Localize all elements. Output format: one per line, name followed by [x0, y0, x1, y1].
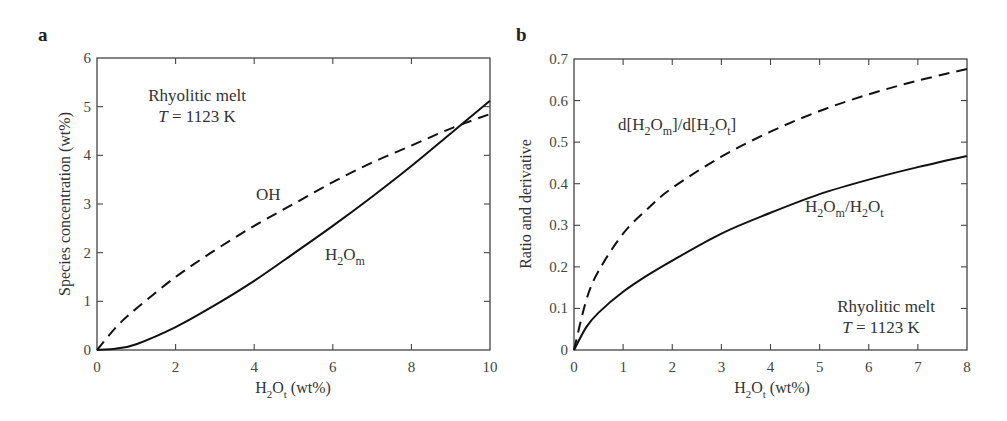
temperature-value: = 1123 K: [852, 318, 921, 337]
x-tick-label: 2: [669, 359, 677, 375]
ratio-series-label: H2Om/H2Ot: [805, 197, 884, 220]
y-tick-label: 3: [84, 196, 92, 212]
oh-series-label: OH: [256, 185, 281, 204]
h2om-sub-m: m: [356, 254, 366, 268]
panel-a-annotation-melt: Rhyolitic melt: [148, 86, 246, 105]
x-tick-label: 8: [408, 359, 416, 375]
deriv-part: d[H: [618, 115, 644, 134]
x-tick-label: 8: [963, 359, 971, 375]
ratio-part: O: [868, 197, 880, 216]
y-tick-label: 6: [84, 50, 92, 66]
series-line-h2om: [97, 101, 490, 350]
x-tick-label: 5: [816, 359, 824, 375]
deriv-part: ]: [731, 115, 737, 134]
xlabel-h: H: [734, 379, 746, 396]
y-tick-label: 0.3: [549, 217, 568, 233]
deriv-part: O: [650, 115, 662, 134]
x-tick-label: 0: [93, 359, 101, 375]
panel-a-label: a: [38, 24, 48, 45]
x-tick-label: 0: [570, 359, 578, 375]
y-tick-label: 0.7: [549, 51, 568, 67]
y-tick-label: 0.6: [549, 93, 568, 109]
temperature-value: = 1123 K: [168, 107, 237, 126]
derivative-series-label: d[H2Om]/d[H2Ot]: [618, 115, 736, 138]
panel-b-x-axis-label: H2Ot (wt%): [734, 379, 810, 400]
panel-a-x-axis-label: H2Ot (wt%): [255, 379, 331, 400]
deriv-part: O: [715, 115, 727, 134]
panel-b-annotation-melt: Rhyolitic melt: [837, 297, 935, 316]
ratio-part: H: [805, 197, 817, 216]
x-tick-label: 4: [767, 359, 775, 375]
xlabel-h: H: [255, 379, 267, 396]
x-tick-label: 2: [172, 359, 180, 375]
y-tick-label: 1: [84, 293, 92, 309]
xlabel-o: O: [751, 379, 763, 396]
y-tick-label: 0: [84, 342, 92, 358]
panel-a-y-axis-label: Species concentration (wt%): [56, 112, 74, 296]
y-tick-label: 2: [84, 245, 92, 261]
x-tick-label: 7: [914, 359, 922, 375]
x-tick-label: 6: [329, 359, 337, 375]
panel-a-ticks: 02468100123456: [84, 50, 498, 375]
panel-b-annotation-temperature: T = 1123 K: [842, 318, 920, 337]
y-tick-label: 0.2: [549, 259, 568, 275]
panel-b-chart: b 01234567800.10.20.30.40.50.60.7 H2Ot (…: [516, 24, 971, 400]
x-tick-label: 3: [718, 359, 726, 375]
xlabel-o: O: [272, 379, 284, 396]
x-tick-label: 4: [250, 359, 258, 375]
y-tick-label: 0.1: [549, 300, 568, 316]
figure: a 02468100123456 H2Ot (wt%) Species conc…: [0, 0, 1007, 421]
h2om-series-label: H2Om: [325, 245, 366, 268]
panel-b-y-axis-label: Ratio and derivative: [517, 139, 534, 269]
y-tick-label: 0: [561, 342, 569, 358]
ratio-part: /H: [845, 197, 862, 216]
panel-a-annotation-temperature: T = 1123 K: [158, 107, 236, 126]
y-tick-label: 0.5: [549, 134, 568, 150]
ratio-sub: t: [880, 206, 884, 220]
y-tick-label: 5: [84, 99, 92, 115]
y-tick-label: 0.4: [549, 176, 568, 192]
panel-b-label: b: [516, 24, 527, 45]
xlabel-unit: (wt%): [287, 379, 331, 397]
x-tick-label: 6: [865, 359, 873, 375]
panel-a-curves: [97, 101, 490, 350]
x-tick-label: 1: [619, 359, 627, 375]
deriv-part: ]/d[H: [672, 115, 709, 134]
xlabel-unit: (wt%): [766, 379, 810, 397]
panel-a-chart: a 02468100123456 H2Ot (wt%) Species conc…: [38, 24, 498, 400]
y-tick-label: 4: [84, 147, 92, 163]
x-tick-label: 10: [483, 359, 498, 375]
h2om-o: O: [343, 245, 355, 264]
ratio-part: O: [823, 197, 835, 216]
h2om-h: H: [325, 245, 337, 264]
